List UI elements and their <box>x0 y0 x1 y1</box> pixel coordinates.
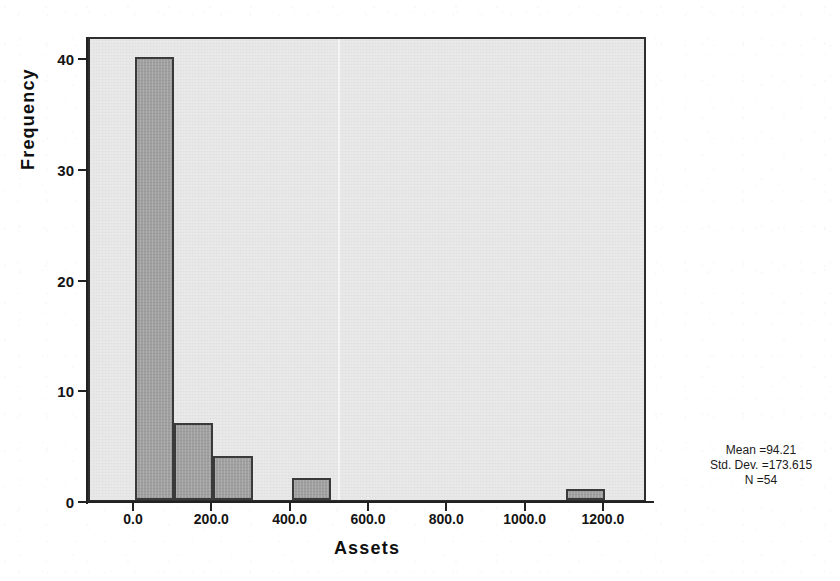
x-tick-label: 600.0 <box>328 512 408 526</box>
y-axis-line <box>86 37 88 504</box>
statistics-annotation: Mean =94.21 Std. Dev. =173.615 N =54 <box>690 443 832 488</box>
n-value: N =54 <box>690 473 832 488</box>
x-tick-mark <box>210 502 212 511</box>
x-tick-label: 400.0 <box>250 512 330 526</box>
std-dev-value: Std. Dev. =173.615 <box>690 458 832 473</box>
y-tick-label: 40 <box>28 52 74 67</box>
y-tick-label: 20 <box>28 273 74 288</box>
y-tick-mark <box>78 501 87 503</box>
histogram-bar <box>213 456 252 500</box>
mean-value: Mean =94.21 <box>690 443 832 458</box>
x-tick-mark <box>524 502 526 511</box>
x-tick-label: 1000.0 <box>485 512 565 526</box>
y-tick-mark <box>78 58 87 60</box>
histogram-bar <box>174 423 213 501</box>
histogram-bar <box>292 478 331 500</box>
y-tick-mark <box>78 390 87 392</box>
histogram-bar <box>135 57 174 500</box>
y-axis-title: Frequency <box>18 68 39 170</box>
histogram-bar <box>566 489 605 500</box>
x-tick-mark <box>289 502 291 511</box>
y-tick-label: 10 <box>28 384 74 399</box>
x-tick-mark <box>445 502 447 511</box>
histogram-chart: 010203040 0.0200.0400.0600.0800.01000.01… <box>0 0 840 581</box>
x-tick-mark <box>367 502 369 511</box>
plot-area <box>88 37 646 502</box>
y-tick-mark <box>78 280 87 282</box>
x-tick-label: 800.0 <box>406 512 486 526</box>
x-axis-title: Assets <box>88 538 646 559</box>
y-tick-label: 0 <box>28 495 74 510</box>
x-tick-mark <box>132 502 134 511</box>
y-tick-mark <box>78 169 87 171</box>
x-tick-label: 200.0 <box>171 512 251 526</box>
x-tick-label: 0.0 <box>93 512 173 526</box>
bar-series <box>90 39 644 500</box>
x-tick-label: 1200.0 <box>563 512 643 526</box>
x-tick-mark <box>602 502 604 511</box>
